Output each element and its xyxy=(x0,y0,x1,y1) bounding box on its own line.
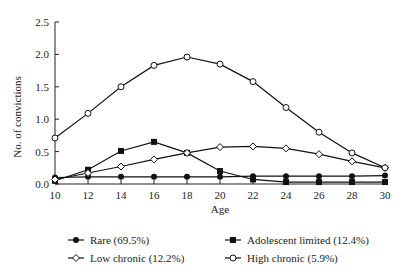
x-tick-label: 10 xyxy=(50,189,62,201)
data-point-marker xyxy=(283,105,289,111)
data-point-marker xyxy=(283,145,290,152)
data-point-marker xyxy=(349,179,355,185)
legend-marker-icon xyxy=(230,237,236,243)
data-point-marker xyxy=(118,174,124,180)
data-point-marker xyxy=(184,174,190,180)
legend-label: Rare (69.5%) xyxy=(90,234,150,247)
data-point-marker xyxy=(217,61,223,67)
x-tick-label: 20 xyxy=(215,189,227,201)
data-point-marker xyxy=(250,79,256,85)
data-point-marker xyxy=(217,174,223,180)
x-tick-label: 16 xyxy=(149,189,161,201)
y-tick-label: 0.5 xyxy=(35,146,49,158)
data-point-marker xyxy=(184,54,190,60)
legend-marker-icon xyxy=(230,255,236,261)
x-tick-label: 26 xyxy=(314,189,326,201)
data-point-marker xyxy=(118,148,124,154)
x-tick-label: 18 xyxy=(182,189,194,201)
data-point-marker xyxy=(316,129,322,135)
y-tick-label: 2.0 xyxy=(35,48,49,60)
legend-label: Adolescent limited (12.4%) xyxy=(247,234,369,247)
data-point-marker xyxy=(250,143,257,150)
data-point-marker xyxy=(151,62,157,68)
data-point-marker xyxy=(349,150,355,156)
x-tick-label: 14 xyxy=(116,189,128,201)
data-point-marker xyxy=(217,168,223,174)
x-tick-label: 12 xyxy=(83,189,94,201)
data-point-marker xyxy=(349,173,355,179)
data-point-marker xyxy=(151,156,158,163)
x-tick-label: 28 xyxy=(347,189,359,201)
legend-marker-icon xyxy=(73,255,80,262)
y-tick-label: 1.0 xyxy=(35,113,49,125)
x-tick-label: 22 xyxy=(248,189,259,201)
data-point-marker xyxy=(250,176,256,182)
data-point-marker xyxy=(316,179,322,185)
data-point-marker xyxy=(382,179,388,185)
y-tick-label: 2.5 xyxy=(35,16,49,28)
y-tick-label: 0.0 xyxy=(35,178,49,190)
legend-label: Low chronic (12.2%) xyxy=(90,252,185,265)
data-point-marker xyxy=(85,110,91,116)
line-chart: 0.00.51.01.52.02.51012141618202224262830… xyxy=(0,0,405,277)
data-point-marker xyxy=(283,179,289,185)
x-tick-label: 24 xyxy=(281,189,293,201)
x-axis-label: Age xyxy=(211,203,229,215)
chart-container: 0.00.51.01.52.02.51012141618202224262830… xyxy=(0,0,405,277)
data-point-marker xyxy=(382,173,388,179)
data-point-marker xyxy=(316,173,322,179)
data-point-marker xyxy=(217,144,224,151)
data-point-marker xyxy=(118,163,125,170)
data-point-marker xyxy=(151,174,157,180)
data-point-marker xyxy=(52,135,58,141)
data-point-marker xyxy=(382,165,388,171)
data-point-marker xyxy=(151,139,157,145)
y-axis-label: No. of convictions xyxy=(11,76,23,158)
x-tick-label: 30 xyxy=(380,189,392,201)
data-point-marker xyxy=(283,173,289,179)
y-tick-label: 1.5 xyxy=(35,81,49,93)
legend-label: High chronic (5.9%) xyxy=(247,252,338,265)
data-point-marker xyxy=(349,158,356,165)
legend-marker-icon xyxy=(73,237,79,243)
data-point-marker xyxy=(316,151,323,158)
data-point-marker xyxy=(118,84,124,90)
